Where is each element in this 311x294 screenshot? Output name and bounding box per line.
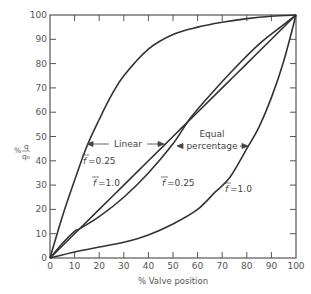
y-tick-label: 90	[36, 34, 48, 44]
label-linear-f025: f =0.25	[82, 155, 116, 166]
curve-linear-f-1-0	[50, 15, 296, 258]
x-axis-title: % Valve position	[138, 276, 208, 286]
x-tick-label: 40	[143, 261, 155, 271]
y-axis-label-denominator: q₀	[22, 152, 30, 161]
label-equal-f10: f =1.0	[224, 183, 252, 194]
y-tick-label: 40	[36, 156, 48, 166]
svg-text:=0.25: =0.25	[167, 178, 195, 188]
x-tick-label: 10	[69, 261, 81, 271]
x-tick-label: 30	[118, 261, 130, 271]
y-tick-label: 60	[36, 107, 48, 117]
curves	[50, 15, 296, 258]
x-tick-label: 0	[47, 261, 53, 271]
x-tick-label: 100	[287, 261, 304, 271]
equal-percentage-label-line1: Equal	[199, 129, 224, 139]
y-axis-label-numerator: q	[24, 142, 29, 151]
x-tick-label: 70	[216, 261, 228, 271]
equal-percentage-label-line2: percentage	[186, 141, 238, 151]
x-tick-label: 50	[167, 261, 179, 271]
svg-text:=1.0: =1.0	[230, 184, 252, 194]
valve-characteristic-chart: 0102030405060708090100 01020304050607080…	[0, 0, 311, 294]
linear-group-label: Linear	[114, 139, 142, 149]
svg-text:=1.0: =1.0	[98, 178, 120, 188]
x-axis-ticks: 0102030405060708090100	[47, 15, 305, 271]
y-tick-label: 100	[30, 10, 47, 20]
y-tick-label: 50	[36, 132, 48, 142]
x-tick-label: 60	[192, 261, 204, 271]
y-tick-label: 10	[36, 229, 48, 239]
svg-text:=0.25: =0.25	[88, 156, 116, 166]
y-tick-label: 80	[36, 59, 48, 69]
x-tick-label: 80	[241, 261, 253, 271]
y-tick-label: 70	[36, 83, 48, 93]
y-tick-label: 30	[36, 180, 48, 190]
x-tick-label: 20	[93, 261, 105, 271]
y-axis-label-pct: %	[14, 146, 21, 155]
label-linear-f10: f =1.0	[92, 177, 120, 188]
y-tick-label: 20	[36, 204, 48, 214]
x-tick-label: 90	[266, 261, 278, 271]
label-equal-f025: f =0.25	[161, 177, 195, 188]
